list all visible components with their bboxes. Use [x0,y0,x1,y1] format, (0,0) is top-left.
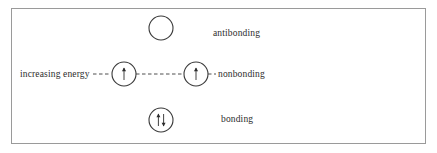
nonbonding-right-electron-up-arrow [194,67,198,80]
nonbonding-label: nonbonding [218,69,265,79]
nonbonding-left-electron-up-arrow [122,67,126,80]
bonding-label: bonding [221,114,253,124]
bonding-orbital-circle [149,108,173,132]
increasing-energy-label: increasing energy [20,69,90,79]
bonding-electron-up-arrow [156,113,160,126]
bonding-electron-down-arrow [162,114,166,127]
antibonding-orbital-circle [149,16,173,40]
antibonding-label: antibonding [213,28,260,38]
diagram-canvas: increasing energy antibonding nonbonding… [0,0,437,153]
